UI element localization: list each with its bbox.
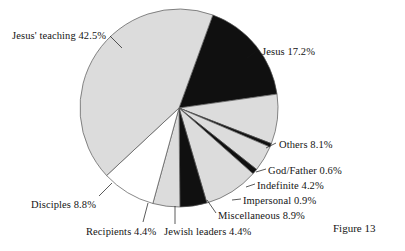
- pie-slice-label: Recipients 4.4%: [86, 226, 156, 237]
- pie-slice-label: God/Father 0.6%: [268, 165, 342, 176]
- pie-slice-label: Indefinite 4.2%: [257, 180, 324, 191]
- pie-slices-group: [80, 9, 278, 207]
- pie-slice-label: Impersonal 0.9%: [243, 195, 316, 206]
- leader-line: [232, 199, 241, 200]
- leader-line: [207, 200, 216, 213]
- pie-slice-label: Jesus 17.2%: [262, 46, 315, 57]
- pie-slice-label: Others 8.1%: [279, 139, 333, 150]
- figure-caption: Figure 13: [333, 222, 375, 234]
- leader-line: [143, 203, 148, 222]
- leader-line: [99, 183, 112, 196]
- pie-slice-label: Miscellaneous 8.9%: [218, 210, 305, 221]
- leader-line: [246, 184, 255, 187]
- pie-slice-label: Disciples 8.8%: [31, 199, 96, 210]
- pie-slice-label: Jewish leaders 4.4%: [164, 226, 251, 237]
- pie-chart-figure: Jesus 17.2%Others 8.1%God/Father 0.6%Ind…: [0, 0, 405, 251]
- pie-slice-label: Jesus' teaching 42.5%: [12, 30, 106, 41]
- leader-line: [256, 169, 266, 172]
